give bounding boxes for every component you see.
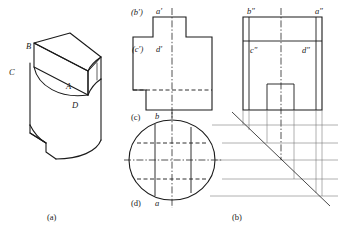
projection-construction	[210, 110, 338, 196]
cylinder-bottom-arc	[56, 140, 101, 159]
side-view-profile	[243, 17, 322, 110]
top-view-hidden-lines	[137, 143, 207, 179]
label-d-prime: d′	[156, 45, 162, 54]
figure-sheet: B C A D (b′) a′ (c′) d′ (c) b (d) a b″ a…	[0, 0, 338, 236]
label-c-paren: (c)	[131, 113, 140, 122]
caption-a: (a)	[47, 213, 56, 222]
label-vertex-A: A	[66, 82, 71, 91]
label-vertex-C: C	[9, 68, 15, 77]
label-d-paren: (d)	[131, 199, 141, 208]
front-view-outline	[133, 17, 212, 110]
label-b: b	[155, 112, 159, 121]
side-notch-profile	[267, 84, 294, 110]
drawing-canvas	[0, 0, 338, 236]
label-a-prime: a′	[156, 7, 162, 16]
label-a: a	[155, 199, 159, 208]
label-b-prime-paren: (b′)	[131, 8, 143, 17]
label-vertex-B: B	[26, 42, 31, 51]
slab-right-round-lower	[88, 79, 101, 95]
notch-outline	[30, 125, 56, 159]
label-a-double-prime: a″	[315, 7, 323, 16]
isometric-solid	[30, 33, 101, 159]
center-lines	[124, 8, 281, 208]
label-b-double-prime: b″	[247, 7, 255, 16]
side-view-outline	[243, 17, 322, 110]
label-d-double-prime: d″	[302, 46, 310, 55]
label-c-double-prime: c″	[250, 46, 257, 55]
top-view-slab-lines	[155, 124, 191, 196]
slab-left-face	[34, 43, 88, 95]
label-vertex-D: D	[72, 101, 78, 110]
front-view-profile	[133, 17, 212, 110]
caption-b: (b)	[232, 213, 242, 222]
label-c-prime-paren: (c′)	[132, 45, 143, 54]
